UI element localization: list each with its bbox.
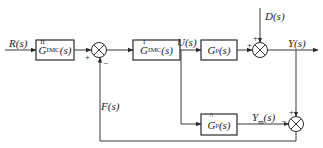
imc1-arg: (s) [161,44,173,56]
u-branch [181,50,201,124]
feedback-path [100,58,296,142]
imc2-sub: IMC [47,46,60,54]
sum1-minus-sign: − [103,59,108,68]
imc2-block-label: GIIIMC(s) [36,40,74,60]
output-label: Y(s) [288,38,306,49]
imc1-block-label: GIIMC(s) [133,40,180,60]
sum3-plus-sign: + [289,108,294,117]
ym-arg: (s) [264,111,276,123]
imc1-sub: IMC [148,46,161,54]
plant-base: G [207,44,215,56]
model-block-label: G^p(s) [201,114,237,135]
sum2-left-plus-sign: + [247,41,252,50]
sum3-minus-sign: − [281,117,286,126]
imc1-sup: I [143,38,145,46]
model-output-label: Ym(s) [252,112,275,126]
sum1-plus-sign: + [85,53,90,62]
feedback-label: F(s) [101,101,119,112]
input-label: R(s) [9,38,27,49]
imc2-arg: (s) [60,44,72,56]
plant-block-label: Gp(s) [201,40,237,60]
model-hat: ^ [210,112,214,121]
model-arg: (s) [219,119,231,131]
sum2-top-plus-sign: + [253,34,258,43]
disturbance-label: D(s) [265,11,285,22]
plant-arg: (s) [219,44,231,56]
imc2-sup: II [40,38,45,46]
